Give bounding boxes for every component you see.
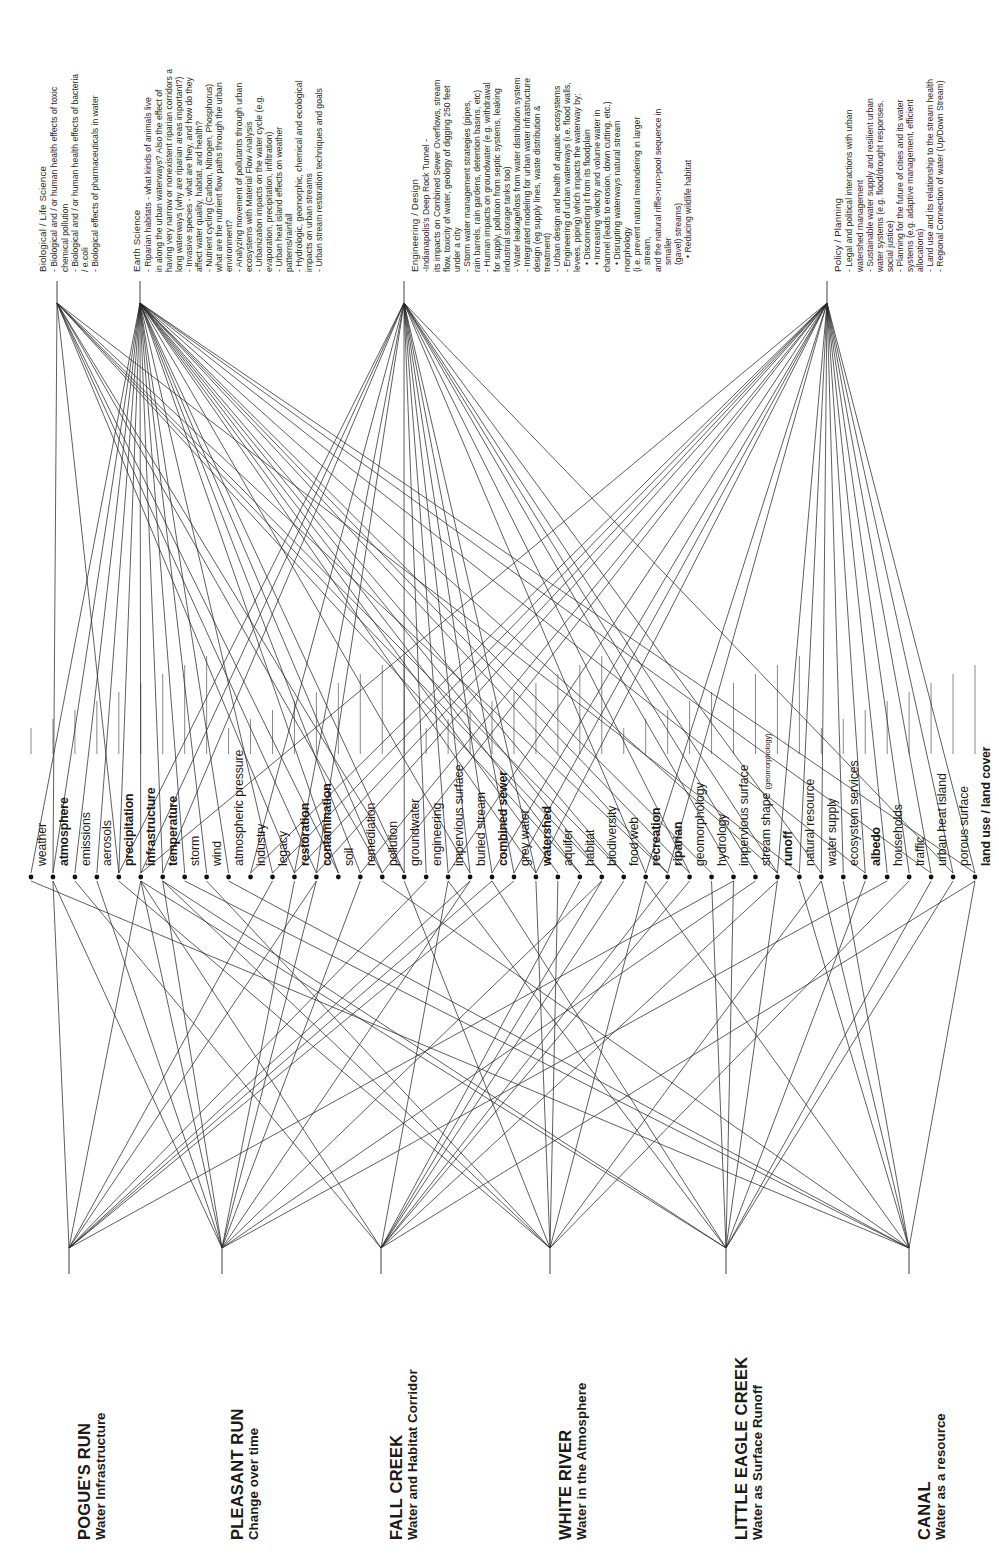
keyword-node[interactable] (534, 875, 539, 880)
keyword-node[interactable] (775, 875, 780, 880)
keyword-label[interactable]: combined sewer (497, 771, 510, 866)
discipline-bullet: allocations) (915, 0, 925, 272)
keyword-label[interactable]: wind (211, 841, 224, 866)
keyword-label[interactable]: precipitation (123, 794, 136, 867)
keyword-label[interactable]: engineering (431, 803, 444, 866)
keyword-label[interactable]: contamination (321, 783, 334, 866)
keyword-node[interactable] (270, 875, 275, 880)
waterway-name[interactable]: LITTLE EAGLE CREEK (733, 1357, 750, 1540)
keyword-label[interactable]: aerosols (101, 820, 114, 866)
keyword-label[interactable]: runoff (782, 831, 795, 866)
keyword-node[interactable] (731, 875, 736, 880)
keyword-node[interactable] (138, 875, 143, 880)
waterway-name[interactable]: CANAL (916, 1481, 933, 1540)
keyword-node[interactable] (116, 875, 121, 880)
keyword-node[interactable] (73, 875, 78, 880)
keyword-label[interactable]: land use / land cover (980, 746, 993, 866)
keyword-label[interactable]: porous surface (958, 786, 971, 866)
keyword-label[interactable]: albedo (870, 827, 883, 866)
keyword-label[interactable]: natural resource (804, 779, 817, 866)
keyword-node[interactable] (863, 875, 868, 880)
waterway-name[interactable]: WHITE RIVER (557, 1430, 574, 1540)
keyword-label[interactable]: temperature (167, 796, 180, 866)
waterway-name[interactable]: POGUE'S RUN (76, 1423, 93, 1540)
keyword-label[interactable]: aquifer (562, 829, 575, 866)
keyword-node[interactable] (160, 875, 165, 880)
keyword-node[interactable] (490, 875, 495, 880)
keyword-label[interactable]: traffic (914, 837, 927, 866)
keyword-node[interactable] (665, 875, 670, 880)
keyword-label[interactable]: buried stream (475, 792, 488, 866)
keyword-node[interactable] (797, 875, 802, 880)
keyword-node[interactable] (555, 875, 560, 880)
keyword-node[interactable] (182, 875, 187, 880)
keyword-label[interactable]: ecosystem services (848, 761, 861, 867)
discipline-bullet: - Legal and political interactions with … (844, 0, 854, 272)
keyword-node[interactable] (929, 875, 934, 880)
keyword-label[interactable]: urban heat island (936, 773, 949, 866)
discipline-bullet: - Analyzing movement of pollutants throu… (234, 0, 244, 272)
keyword-node[interactable] (512, 875, 517, 880)
keyword-label[interactable]: hydrology (716, 814, 729, 866)
keyword-label[interactable]: watershed (541, 806, 554, 866)
keyword-label[interactable]: water supply (826, 798, 839, 866)
keyword-node[interactable] (204, 875, 209, 880)
keyword-node[interactable] (51, 875, 56, 880)
keyword-label[interactable]: habitat (584, 830, 597, 866)
keyword-node[interactable] (292, 875, 297, 880)
keyword-node[interactable] (621, 875, 626, 880)
keyword-label[interactable]: atmospheric pressure (233, 750, 246, 866)
keyword-node[interactable] (226, 875, 231, 880)
discipline-bullet: levees, piping) which impacts the waterw… (572, 0, 582, 272)
keyword-node[interactable] (94, 875, 99, 880)
keyword-label[interactable]: biodiversity (606, 806, 619, 866)
keyword-label[interactable]: emissions (80, 812, 93, 866)
keyword-node[interactable] (599, 875, 604, 880)
keyword-label[interactable]: industry (255, 824, 268, 866)
keyword-node[interactable] (577, 875, 582, 880)
keyword-node[interactable] (687, 875, 692, 880)
keyword-label[interactable]: soil (343, 848, 356, 866)
keyword-node[interactable] (424, 875, 429, 880)
keyword-label[interactable]: pollution (387, 821, 400, 866)
keyword-node[interactable] (973, 875, 978, 880)
keyword-node[interactable] (643, 875, 648, 880)
keyword-node[interactable] (402, 875, 407, 880)
keyword-node[interactable] (380, 875, 385, 880)
discipline-bullet: • Disconnecting it from its floodplain (582, 0, 592, 272)
keyword-label[interactable]: impervious surface (738, 765, 751, 866)
keyword-label[interactable]: impervious surface (453, 765, 466, 866)
keyword-label[interactable]: groundwater (409, 799, 422, 866)
waterway-name[interactable]: FALL CREEK (388, 1435, 405, 1540)
keyword-label[interactable]: riparian (672, 822, 685, 866)
keyword-node[interactable] (336, 875, 341, 880)
keyword-node[interactable] (907, 875, 912, 880)
keyword-label[interactable]: stream shape (geomorphology) (760, 733, 773, 866)
keyword-node[interactable] (358, 875, 363, 880)
keyword-label[interactable]: legacy (277, 831, 290, 866)
keyword-label[interactable]: grey water (519, 810, 532, 866)
keyword-node[interactable] (819, 875, 824, 880)
keyword-node[interactable] (885, 875, 890, 880)
keyword-node[interactable] (841, 875, 846, 880)
keyword-label[interactable]: storm (189, 836, 202, 866)
keyword-node[interactable] (314, 875, 319, 880)
keyword-node[interactable] (709, 875, 714, 880)
keyword-node[interactable] (446, 875, 451, 880)
keyword-label[interactable]: recreation (650, 808, 663, 866)
keyword-node[interactable] (29, 875, 34, 880)
keyword-node[interactable] (951, 875, 956, 880)
keyword-node[interactable] (468, 875, 473, 880)
keyword-node[interactable] (248, 875, 253, 880)
discipline-bullet: rain barrels, rain gardens, detention ba… (472, 0, 482, 272)
keyword-label[interactable]: infrastructure (145, 787, 158, 866)
keyword-label[interactable]: geomorphology (694, 783, 707, 866)
keyword-node[interactable] (753, 875, 758, 880)
keyword-label[interactable]: remediation (365, 803, 378, 866)
keyword-label[interactable]: atmosphere (58, 797, 71, 866)
keyword-label[interactable]: restoration (299, 803, 312, 866)
keyword-label[interactable]: households (892, 804, 905, 866)
waterway-name[interactable]: PLEASANT RUN (229, 1408, 246, 1540)
keyword-label[interactable]: food web (628, 817, 641, 866)
keyword-label[interactable]: weather (36, 823, 49, 866)
